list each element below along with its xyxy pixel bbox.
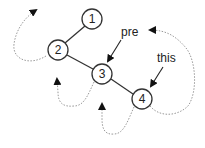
traversal-arrow-from-node-4-left xyxy=(102,104,134,134)
node-label: 3 xyxy=(99,67,106,81)
tree-node-1: 1 xyxy=(82,9,102,29)
node-label: 1 xyxy=(89,12,96,26)
traversal-arrow-from-node-4-right xyxy=(150,30,195,114)
traversal-arrow-from-node-2 xyxy=(14,10,46,61)
traversal-arrow-from-node-3 xyxy=(57,79,94,106)
node-label: 4 xyxy=(139,92,146,106)
pointer-arrow-this xyxy=(151,67,163,86)
edge-1-2 xyxy=(65,26,85,43)
edge-2-3 xyxy=(67,55,93,69)
pointer-arrow-pre xyxy=(108,40,121,61)
tree-diagram-svg: 1 2 3 4 pre this xyxy=(0,0,205,148)
tree-node-2: 2 xyxy=(48,40,68,60)
pointer-label-this: this xyxy=(157,51,176,65)
tree-node-4: 4 xyxy=(132,89,152,109)
edge-3-4 xyxy=(111,79,133,94)
node-label: 2 xyxy=(55,43,62,57)
tree-diagram: 1 2 3 4 pre this xyxy=(0,0,205,148)
pointer-label-pre: pre xyxy=(121,25,139,39)
tree-node-3: 3 xyxy=(92,64,112,84)
